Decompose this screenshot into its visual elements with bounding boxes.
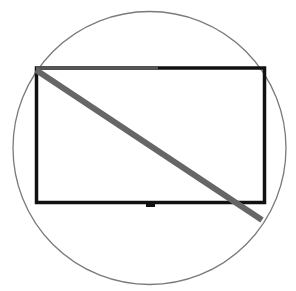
tv-stand (146, 203, 155, 207)
strike-through-line (36, 70, 262, 220)
tv-icon (37, 68, 265, 207)
no-tv-icon (0, 0, 296, 291)
tv-screen-frame (37, 68, 265, 203)
